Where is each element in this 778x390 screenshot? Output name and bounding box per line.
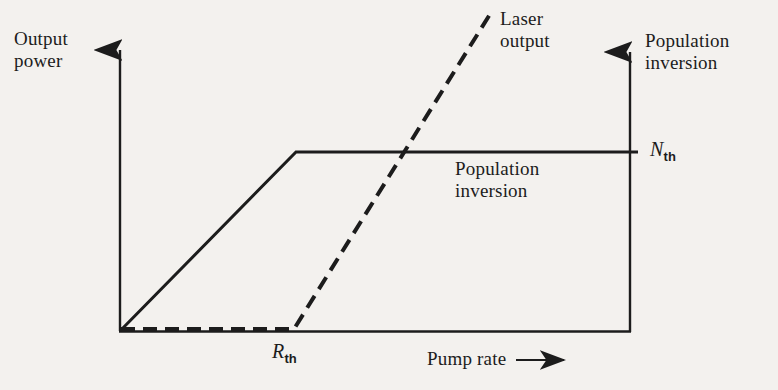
r-threshold-symbol: R <box>272 340 284 362</box>
right-axis-label: Population inversion <box>645 30 729 74</box>
population-inversion-label: Population inversion <box>455 158 539 202</box>
n-threshold-label: Nth <box>650 138 676 168</box>
laser-output-label: Laser output <box>500 8 550 52</box>
laser-threshold-diagram: Output power Population inversion Laser … <box>0 0 778 390</box>
population-inversion-curve <box>120 152 638 331</box>
r-threshold-subscript: th <box>284 351 296 366</box>
n-threshold-symbol: N <box>650 138 664 160</box>
laser-output-curve <box>121 11 492 329</box>
x-axis-label: Pump rate <box>427 348 506 370</box>
r-threshold-label: Rth <box>272 340 297 370</box>
n-threshold-subscript: th <box>664 149 676 164</box>
left-axis-label: Output power <box>14 28 68 72</box>
